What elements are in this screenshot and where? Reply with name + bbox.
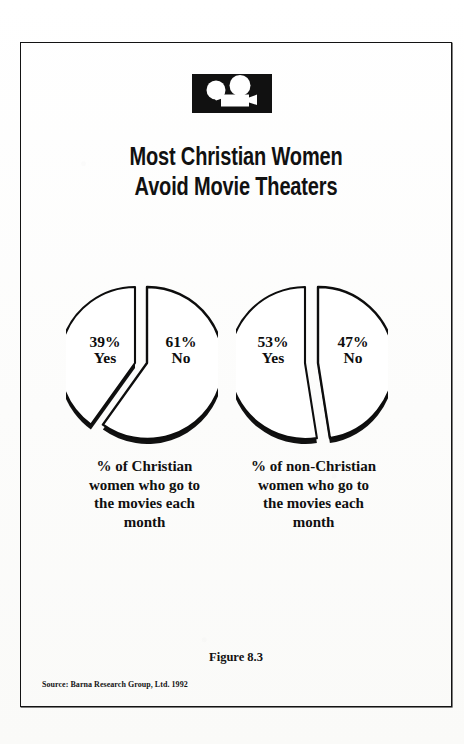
charts-row: 39% Yes 61% No 53% Yes [20, 282, 452, 447]
pie-label-no-value: 47% [324, 334, 382, 350]
caption-line: the movies each [226, 494, 401, 513]
caption-line: women who go to [226, 476, 401, 495]
pie-label-no-value: 61% [152, 334, 210, 350]
pie-chart-non-christian-women: 53% Yes 47% No [236, 282, 388, 444]
source-note: Source: Barna Research Group, Ltd. 1992 [42, 680, 188, 689]
pie-label-no-christian: 61% No [152, 334, 210, 366]
caption-line: % of non-Christian [226, 457, 401, 476]
pie-label-yes-christian: 39% Yes [76, 334, 134, 366]
pie-label-yes-name: Yes [244, 350, 302, 366]
pie-label-yes-value: 53% [244, 334, 302, 350]
chart-captions: % of Christian women who go to the movie… [20, 457, 452, 547]
pie-label-no-name: No [324, 350, 382, 366]
chart-caption-non-christian: % of non-Christian women who go to the m… [226, 457, 401, 531]
page-title: Most Christian Women Avoid Movie Theater… [20, 141, 452, 201]
pie-chart-christian-women: 39% Yes 61% No [66, 282, 218, 444]
caption-line: month [57, 513, 232, 532]
caption-line: % of Christian [57, 457, 232, 476]
chart-caption-christian: % of Christian women who go to the movie… [57, 457, 232, 531]
caption-line: women who go to [57, 476, 232, 495]
scanned-book-page: Most Christian Women Avoid Movie Theater… [0, 0, 464, 744]
movie-camera-icon [192, 74, 272, 113]
pie-label-no-non-christian: 47% No [324, 334, 382, 366]
caption-line: month [226, 513, 401, 532]
page-title-line-1: Most Christian Women [63, 141, 409, 171]
pie-label-yes-value: 39% [76, 334, 134, 350]
pie-label-no-name: No [152, 350, 210, 366]
page-title-line-2: Avoid Movie Theaters [63, 171, 409, 201]
pie-label-yes-non-christian: 53% Yes [244, 334, 302, 366]
caption-line: the movies each [57, 494, 232, 513]
figure-label: Figure 8.3 [20, 650, 452, 665]
pie-label-yes-name: Yes [76, 350, 134, 366]
